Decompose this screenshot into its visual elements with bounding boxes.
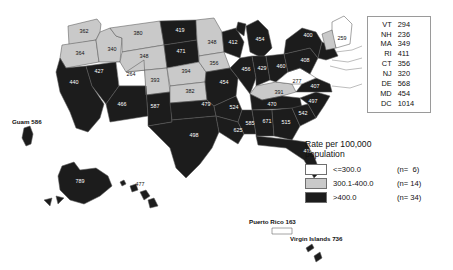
label-AR: 524 bbox=[230, 104, 239, 110]
label-GA: 515 bbox=[282, 119, 291, 125]
abbrev-code: NJ bbox=[370, 70, 397, 80]
label-MO: 454 bbox=[220, 79, 229, 85]
abbrev-code: MA bbox=[370, 40, 397, 50]
legend-count-low: (n= 6) bbox=[397, 165, 419, 174]
label-WV: 277 bbox=[293, 78, 302, 84]
label-CA: 440 bbox=[70, 79, 79, 85]
label-MT: 380 bbox=[134, 30, 143, 36]
abbrev-code: CT bbox=[370, 60, 397, 70]
abbrev-table-body: VT 294 NH 236 MA 349 RI 411 CT 356 bbox=[370, 20, 428, 109]
label-MI: 454 bbox=[256, 36, 265, 42]
legend-swatch-high bbox=[305, 192, 327, 203]
legend-title: Rate per 100,000 population bbox=[305, 139, 451, 159]
legend-title-line2: population bbox=[305, 149, 451, 159]
label-NY: 400 bbox=[304, 32, 313, 38]
label-puerto-rico: Puerto Rico 163 bbox=[249, 218, 296, 225]
label-ME: 259 bbox=[338, 35, 347, 41]
legend-range-high: >400.0 bbox=[333, 193, 397, 202]
label-MS: 585 bbox=[246, 120, 255, 126]
abbrev-code: VT bbox=[370, 20, 397, 30]
label-AK: 789 bbox=[76, 178, 85, 184]
label-WY: 348 bbox=[140, 53, 149, 59]
abbrev-value: 349 bbox=[397, 40, 428, 50]
label-NM: 587 bbox=[151, 103, 160, 109]
label-AL: 671 bbox=[263, 118, 272, 124]
map-figure: 362 364 340 380 348 419 471 348 394 356 … bbox=[0, 0, 453, 270]
abbrev-value: 454 bbox=[397, 89, 428, 99]
abbrev-table: VT 294 NH 236 MA 349 RI 411 CT 356 bbox=[370, 20, 428, 109]
label-OR: 364 bbox=[76, 50, 85, 56]
map-legend: Rate per 100,000 population <=300.0 (n= … bbox=[305, 139, 451, 206]
legend-row-high: >400.0 (n= 34) bbox=[305, 192, 451, 203]
table-row: NJ 320 bbox=[370, 70, 428, 80]
state-TX[interactable] bbox=[148, 116, 219, 178]
label-KS: 382 bbox=[186, 88, 195, 94]
label-WA: 362 bbox=[80, 28, 89, 34]
label-OK: 479 bbox=[202, 101, 211, 107]
abbrev-value: 356 bbox=[397, 60, 428, 70]
abbrev-code: MD bbox=[370, 89, 397, 99]
label-NE: 394 bbox=[182, 68, 191, 74]
inset-puerto-rico[interactable] bbox=[272, 228, 292, 234]
label-guam: Guam 586 bbox=[12, 118, 42, 125]
label-TN: 470 bbox=[268, 101, 277, 107]
abbrev-value: 1014 bbox=[397, 99, 428, 109]
label-IN: 429 bbox=[258, 65, 267, 71]
legend-range-mid: 300.1-400.0 bbox=[333, 179, 397, 188]
label-TX: 498 bbox=[190, 132, 199, 138]
abbrev-code: DE bbox=[370, 80, 397, 90]
abbrev-code: DC bbox=[370, 99, 397, 109]
legend-count-mid: (n= 14) bbox=[397, 179, 421, 188]
table-row: MD 454 bbox=[370, 89, 428, 99]
label-IA: 356 bbox=[210, 60, 219, 66]
label-HI: 477 bbox=[136, 181, 145, 187]
label-ND: 419 bbox=[176, 27, 185, 33]
inset-virgin-islands[interactable] bbox=[306, 244, 322, 262]
label-OH: 460 bbox=[277, 63, 286, 69]
label-LA: 625 bbox=[234, 127, 243, 133]
label-VA: 407 bbox=[311, 83, 320, 89]
label-NC: 497 bbox=[309, 98, 318, 104]
state-MN[interactable] bbox=[196, 18, 224, 56]
label-AZ: 466 bbox=[118, 101, 127, 107]
abbrev-value: 320 bbox=[397, 70, 428, 80]
inset-guam[interactable] bbox=[22, 126, 33, 146]
abbrev-value: 294 bbox=[397, 20, 428, 30]
table-row: NH 236 bbox=[370, 30, 428, 40]
label-CO: 393 bbox=[151, 77, 160, 83]
table-row: CT 356 bbox=[370, 60, 428, 70]
table-row: DE 568 bbox=[370, 80, 428, 90]
legend-title-line1: Rate per 100,000 bbox=[305, 139, 451, 149]
table-row: RI 411 bbox=[370, 50, 428, 60]
legend-row-mid: 300.1-400.0 (n= 14) bbox=[305, 178, 451, 189]
label-UT: 264 bbox=[127, 71, 136, 77]
label-KY: 391 bbox=[275, 89, 284, 95]
label-MN: 348 bbox=[208, 39, 217, 45]
table-row: DC 1014 bbox=[370, 99, 428, 109]
abbrev-code: NH bbox=[370, 30, 397, 40]
label-WI: 412 bbox=[229, 39, 238, 45]
label-SD: 471 bbox=[177, 48, 186, 54]
label-SC: 542 bbox=[299, 110, 308, 116]
abbrev-code: RI bbox=[370, 50, 397, 60]
label-virgin-islands: Virgin Islands 736 bbox=[290, 235, 343, 242]
label-PA: 408 bbox=[301, 57, 310, 63]
abbrev-value: 236 bbox=[397, 30, 428, 40]
table-row: VT 294 bbox=[370, 20, 428, 30]
legend-count-high: (n= 34) bbox=[397, 193, 421, 202]
legend-swatch-low bbox=[305, 164, 327, 175]
label-IL: 456 bbox=[242, 66, 251, 72]
legend-row-low: <=300.0 (n= 6) bbox=[305, 164, 451, 175]
table-row: MA 349 bbox=[370, 40, 428, 50]
small-states-value-table: VT 294 NH 236 MA 349 RI 411 CT 356 bbox=[367, 16, 431, 113]
abbrev-value: 411 bbox=[397, 50, 428, 60]
abbrev-value: 568 bbox=[397, 80, 428, 90]
label-NV: 427 bbox=[95, 68, 104, 74]
legend-range-low: <=300.0 bbox=[333, 165, 397, 174]
legend-swatch-mid bbox=[305, 178, 327, 189]
label-ID: 340 bbox=[108, 46, 117, 52]
